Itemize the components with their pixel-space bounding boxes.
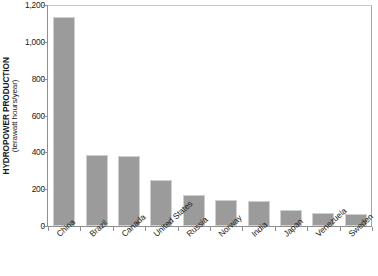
x-axis-tick-mark [145,227,146,231]
x-axis-tick-mark [178,227,179,231]
x-axis-tick-mark [48,227,49,231]
x-axis-tick-mark [210,227,211,231]
y-axis-tick-labels: 02004006008001,0001,200 [20,0,45,232]
bars-layer [48,5,372,226]
y-axis-tick-label: 200 [20,185,45,193]
bar [53,17,75,226]
x-axis-tick-mark [340,227,341,231]
y-axis-tick-label: 400 [20,148,45,156]
bar [86,155,108,226]
y-axis-tick-label: 800 [20,74,45,82]
x-axis-tick-mark [113,227,114,231]
x-axis-tick-mark [242,227,243,231]
x-axis-tick-mark [275,227,276,231]
y-axis-tick-label: 600 [20,111,45,119]
x-axis-tick-mark [372,227,373,231]
y-axis-tick-label: 1,000 [20,38,45,46]
x-axis-tick-mark [307,227,308,231]
y-axis-title: HYDROPOWER PRODUCTION (terawatt hours/ye… [0,0,22,232]
x-axis-tick-labels: ChinaBrazilCanadaUnited StatesRussiaNorw… [0,232,378,276]
y-axis-tick-label: 1,200 [20,1,45,9]
hydropower-production-bar-chart: HYDROPOWER PRODUCTION (terawatt hours/ye… [0,0,378,276]
y-axis-title-units: (terawatt hours/year) [11,57,20,174]
y-axis-tick-label: 0 [20,222,45,230]
x-axis-tick-mark [80,227,81,231]
